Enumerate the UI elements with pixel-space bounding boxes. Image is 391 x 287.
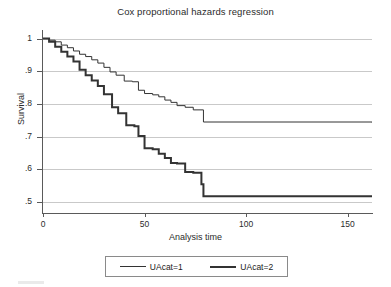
y-tick-mark (37, 202, 42, 203)
y-tick-label: .8 (6, 98, 32, 108)
plot-area (43, 32, 372, 212)
page-title: Cox proportional hazards regression (0, 6, 391, 17)
legend-label: UAcat=2 (240, 262, 273, 272)
y-tick-mark (37, 71, 42, 72)
y-tick-mark (37, 39, 42, 40)
y-tick-label: .9 (6, 65, 32, 75)
x-tick-label: 50 (130, 219, 160, 229)
y-tick-mark (37, 137, 42, 138)
legend-label: UAcat=1 (150, 262, 183, 272)
x-tick-mark (43, 213, 44, 217)
legend-item-uacat-2[interactable]: UAcat=2 (210, 262, 273, 272)
y-tick-label: .6 (6, 163, 32, 173)
survival-curve-uacat-2 (43, 39, 372, 198)
legend: UAcat=1 UAcat=2 (105, 256, 288, 277)
thin-line-swatch (120, 266, 146, 267)
y-tick-mark (37, 169, 42, 170)
survival-curves (43, 32, 372, 212)
thick-line-swatch (210, 266, 236, 268)
y-tick-label: .7 (6, 131, 32, 141)
x-tick-label: 150 (333, 219, 363, 229)
x-tick-mark (246, 213, 247, 217)
x-axis-label: Analysis time (0, 232, 391, 242)
y-tick-label: 1 (6, 33, 32, 43)
x-axis-line (42, 213, 373, 214)
x-tick-mark (348, 213, 349, 217)
cox-regression-figure: Cox proportional hazards regression Surv… (0, 0, 391, 287)
x-tick-mark (145, 213, 146, 217)
x-tick-label: 0 (28, 219, 58, 229)
y-tick-mark (37, 104, 42, 105)
scan-artifact (18, 281, 44, 284)
x-tick-label: 100 (231, 219, 261, 229)
legend-item-uacat-1[interactable]: UAcat=1 (120, 262, 183, 272)
y-tick-label: .5 (6, 196, 32, 206)
